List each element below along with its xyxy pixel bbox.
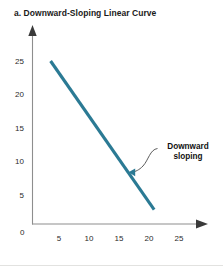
x-tick-label-10: 10 (79, 234, 99, 243)
x-tick-label-25: 25 (169, 234, 189, 243)
origin-label: 0 (20, 228, 24, 237)
y-axis-arrow-icon (28, 25, 36, 36)
annotation-leader-line (133, 149, 158, 173)
x-axis-arrow-icon (196, 219, 208, 228)
y-tick-label-15: 15 (6, 124, 24, 133)
annotation-line-2: sloping (160, 152, 216, 162)
x-tick-label-15: 15 (109, 234, 129, 243)
figure-panel-a: a. Downward-Sloping Linear Curve 25 20 1… (0, 0, 223, 266)
downward-sloping-line (51, 61, 155, 210)
y-tick-label-5: 5 (6, 191, 24, 200)
y-tick-label-25: 25 (6, 57, 24, 66)
y-tick-label-20: 20 (6, 90, 24, 99)
plot-area (0, 0, 223, 266)
annotation-downward-sloping: Downward sloping (160, 142, 216, 162)
x-tick-label-5: 5 (49, 234, 69, 243)
annotation-line-1: Downward (160, 142, 216, 152)
x-tick-label-20: 20 (139, 234, 159, 243)
y-tick-label-10: 10 (6, 157, 24, 166)
